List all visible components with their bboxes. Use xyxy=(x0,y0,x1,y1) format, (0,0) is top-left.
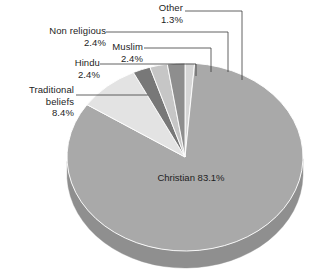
pie-slices xyxy=(67,63,303,251)
callout-other-label: Other xyxy=(123,2,183,14)
slice-label-christian-value: 83.1% xyxy=(198,172,225,183)
callout-muslim-label: Muslim xyxy=(95,41,143,53)
callout-hindu-value: 2.4% xyxy=(55,69,100,81)
callout-traditional-beliefs-label-line2: beliefs xyxy=(2,96,74,108)
callout-muslim-value: 2.4% xyxy=(95,53,143,65)
callout-traditional-beliefs: Traditional beliefs 8.4% xyxy=(2,84,74,119)
pie-chart: Other 1.3% Non religious 2.4% Muslim 2.4… xyxy=(0,0,314,277)
callout-muslim: Muslim 2.4% xyxy=(95,41,143,64)
slice-label-christian-label: Christian xyxy=(157,172,195,183)
callout-hindu: Hindu 2.4% xyxy=(55,57,100,80)
slice-label-christian: Christian 83.1% xyxy=(155,172,227,184)
callout-hindu-label: Hindu xyxy=(55,57,100,69)
callout-traditional-beliefs-value: 8.4% xyxy=(2,107,74,119)
callout-other-value: 1.3% xyxy=(123,14,183,26)
callout-traditional-beliefs-label-line1: Traditional xyxy=(2,84,74,96)
callout-non-religious-label: Non religious xyxy=(28,25,106,37)
callout-other: Other 1.3% xyxy=(123,2,183,25)
